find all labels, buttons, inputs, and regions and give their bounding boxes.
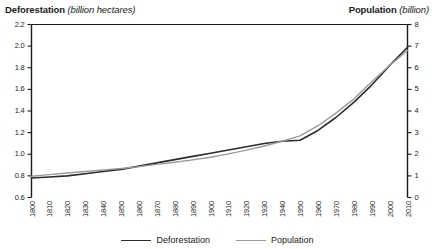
legend-label: Population	[271, 235, 314, 245]
y-axis-tick-label: 1.4	[3, 106, 25, 115]
x-axis-tick-label: 2000	[386, 201, 395, 217]
x-axis-tick-label: 1870	[153, 201, 162, 217]
x-axis-tick-label: 1950	[296, 201, 305, 217]
y2-axis-tick-label: 1	[415, 171, 435, 180]
x-axis-tick-label: 1820	[63, 201, 72, 217]
x-axis-tick-label: 1930	[260, 201, 269, 217]
x-axis-tick-label: 1940	[278, 201, 287, 217]
legend-item[interactable]: Population	[236, 235, 314, 245]
x-axis-tick-label: 1850	[117, 201, 126, 217]
x-axis-tick-label: 1800	[28, 201, 37, 217]
legend-line-swatch	[236, 240, 266, 241]
x-axis-tick-label: 1880	[171, 201, 180, 217]
x-axis-tick-label: 1900	[207, 201, 216, 217]
y-axis-tick-label: 1.0	[3, 149, 25, 158]
x-axis-tick-label: 1970	[332, 201, 341, 217]
y-axis-tick-label: 0.8	[3, 171, 25, 180]
y2-axis-tick-label: 8	[415, 20, 435, 29]
x-axis-tick-label: 1910	[224, 201, 233, 217]
deforestation-population-chart: Deforestation (billion hectares) Populat…	[0, 0, 435, 249]
y2-axis-tick-label: 0	[415, 193, 435, 202]
chart-legend: DeforestationPopulation	[0, 235, 435, 245]
series-lines	[32, 47, 408, 178]
y-axis-tick-label: 2.2	[3, 20, 25, 29]
y2-axis-tick-label: 5	[415, 84, 435, 93]
y2-axis-tick-label: 2	[415, 149, 435, 158]
x-axis-tick-label: 1830	[81, 201, 90, 217]
x-axis-tick-label: 1980	[350, 201, 359, 217]
legend-item[interactable]: Deforestation	[121, 235, 210, 245]
x-axis-tick-label: 1840	[99, 201, 108, 217]
y-axis-tick-label: 1.2	[3, 128, 25, 137]
y-axis-tick-label: 1.8	[3, 63, 25, 72]
legend-line-swatch	[121, 240, 151, 241]
x-axis-tick-label: 1960	[314, 201, 323, 217]
x-axis-tick-label: 1890	[189, 201, 198, 217]
y2-axis-tick-label: 7	[415, 41, 435, 50]
y-axis-tick-label: 0.6	[3, 193, 25, 202]
x-axis-tick-label: 1920	[242, 201, 251, 217]
y-axis-tick-label: 2.0	[3, 41, 25, 50]
x-axis-tick-label: 2010	[404, 201, 413, 217]
x-axis-tick-label: 1810	[45, 201, 54, 217]
x-axis-tick-label: 1990	[368, 201, 377, 217]
x-axis-tick-label: 1860	[135, 201, 144, 217]
y2-axis-tick-label: 6	[415, 63, 435, 72]
y2-axis-tick-label: 4	[415, 106, 435, 115]
y2-axis-tick-label: 3	[415, 128, 435, 137]
y-axis-tick-label: 1.6	[3, 84, 25, 93]
legend-label: Deforestation	[156, 235, 210, 245]
